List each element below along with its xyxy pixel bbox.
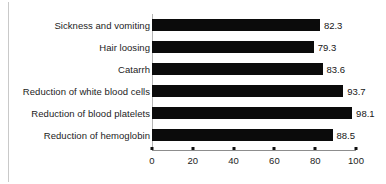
category-label: Sickness and vomiting	[54, 20, 150, 31]
bar-track	[152, 107, 352, 119]
x-tick-mark	[355, 147, 358, 150]
x-tick-mark	[232, 147, 235, 150]
bar-chart-figure: Sickness and vomiting82.3Hair loosing79.…	[0, 0, 386, 184]
bar-value-label: 88.5	[337, 130, 356, 141]
category-label: Reduction of white blood cells	[23, 86, 150, 97]
bar-row: Reduction of blood platelets98.1	[0, 102, 386, 124]
bar	[152, 63, 323, 75]
bar-row: Sickness and vomiting82.3	[0, 14, 386, 36]
bar-value-label: 82.3	[324, 20, 343, 31]
bar-track	[152, 63, 323, 75]
bar-row: Reduction of white blood cells93.7	[0, 80, 386, 102]
bar-row: Hair loosing79.3	[0, 36, 386, 58]
x-tick-label: 60	[269, 155, 280, 166]
bar	[152, 129, 333, 141]
bar-value-label: 98.1	[356, 108, 375, 119]
category-label: Reduction of blood platelets	[31, 108, 150, 119]
bar	[152, 85, 343, 97]
category-label: Reduction of hemoglobin	[44, 130, 150, 141]
x-tick-label: 100	[348, 155, 364, 166]
bar-value-label: 83.6	[327, 64, 346, 75]
bar-row: Catarrh83.6	[0, 58, 386, 80]
x-tick-mark	[273, 147, 276, 150]
bar	[152, 107, 352, 119]
x-tick-label: 20	[188, 155, 199, 166]
bar	[152, 19, 320, 31]
bar-track	[152, 85, 343, 97]
bar-row: Reduction of hemoglobin88.5	[0, 124, 386, 146]
x-tick-label: 40	[228, 155, 239, 166]
category-label: Catarrh	[118, 64, 150, 75]
bar-value-label: 93.7	[347, 86, 366, 97]
bar	[152, 41, 314, 53]
category-label: Hair loosing	[99, 42, 150, 53]
x-tick-mark	[191, 147, 194, 150]
x-tick-mark	[151, 147, 154, 150]
x-tick-label: 80	[310, 155, 321, 166]
x-axis-line	[152, 150, 356, 151]
bar-track	[152, 41, 314, 53]
x-tick-label: 0	[149, 155, 154, 166]
x-tick-mark	[314, 147, 317, 150]
bar-value-label: 79.3	[318, 42, 337, 53]
bar-track	[152, 19, 320, 31]
bar-track	[152, 129, 333, 141]
plot-area: Sickness and vomiting82.3Hair loosing79.…	[0, 0, 386, 184]
